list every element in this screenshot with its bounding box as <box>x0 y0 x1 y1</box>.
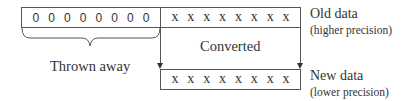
bit: x <box>235 71 242 87</box>
left-conversion-line <box>160 28 161 63</box>
bit: x <box>203 71 210 87</box>
bit: x <box>251 71 258 87</box>
new-data-sublabel: (lower precision) <box>310 86 389 98</box>
bit: x <box>219 71 226 87</box>
right-conversion-line <box>300 28 301 63</box>
converted-label: Converted <box>200 38 260 55</box>
thrown-away-label: Thrown away <box>50 58 130 75</box>
new-data-label: New data <box>310 68 363 84</box>
bit: x <box>171 71 178 87</box>
bit: x <box>267 71 274 87</box>
bit: x <box>187 71 194 87</box>
bit: x <box>283 71 290 87</box>
new-bits: x x x x x x x x <box>161 69 300 90</box>
